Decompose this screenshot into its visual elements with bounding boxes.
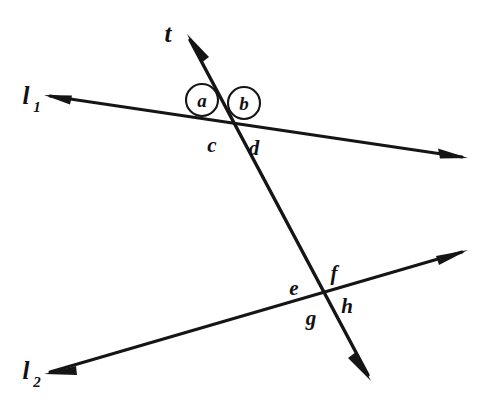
angle-b-text: b	[239, 93, 249, 114]
geometry-figure: a b c d e f g h l 1 l 2 t	[0, 0, 485, 413]
angle-a-text: a	[197, 90, 207, 111]
angle-label-f: f	[331, 261, 340, 285]
line-label-l1: l	[23, 82, 30, 109]
line-label-l2: l	[23, 357, 30, 384]
angle-label-h: h	[341, 294, 353, 318]
angle-label-g: g	[305, 306, 317, 330]
angle-label-e: e	[289, 276, 298, 300]
line-l2	[44, 250, 468, 375]
line-l2-arrowhead-right	[436, 250, 468, 265]
line-label-l2-group: l 2	[23, 357, 42, 390]
line-t-transversal	[187, 34, 371, 381]
line-label-t: t	[165, 20, 173, 47]
line-l1-arrowhead-left	[44, 95, 72, 105]
angle-label-a-group: a	[186, 84, 218, 116]
line-label-l1-subscript: 1	[33, 99, 41, 115]
angle-label-c: c	[207, 133, 217, 157]
geometry-canvas: a b c d e f g h l 1 l 2 t	[0, 0, 485, 413]
line-l1-arrowhead-right	[438, 149, 468, 159]
line-label-l1-group: l 1	[23, 82, 41, 115]
angle-label-b-group: b	[228, 87, 260, 119]
angle-label-d: d	[249, 136, 260, 160]
line-l2-arrowhead-left	[44, 366, 77, 375]
line-l2-stroke	[50, 252, 462, 372]
line-label-l2-subscript: 2	[32, 374, 41, 390]
